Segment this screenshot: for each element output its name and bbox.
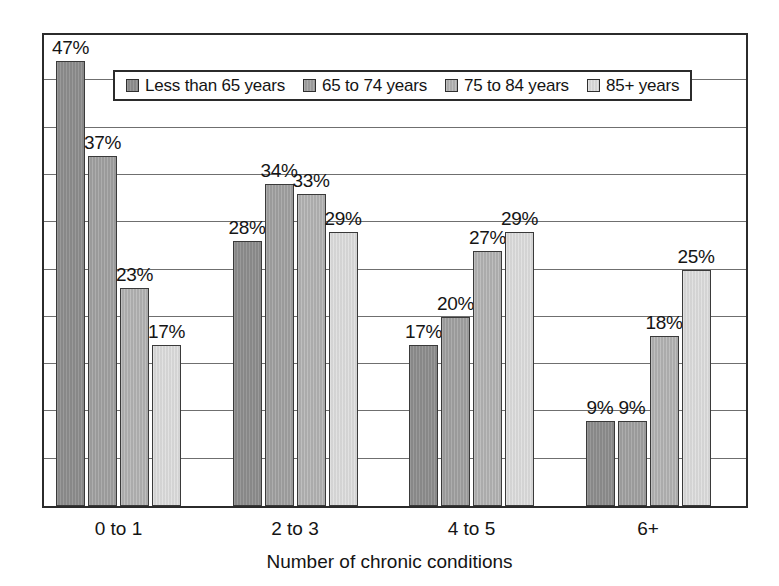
bar-value-label: 47%	[52, 38, 89, 57]
legend-label: Less than 65 years	[145, 77, 285, 94]
bar-value-label: 37%	[84, 133, 121, 152]
chart-legend: Less than 65 years65 to 74 years75 to 84…	[113, 70, 692, 101]
x-axis-tick-labels: 0 to 12 to 34 to 56+	[42, 518, 748, 544]
bar[interactable]	[505, 232, 534, 506]
legend-label: 85+ years	[606, 77, 679, 94]
bar-group: 17%20%27%29%	[409, 33, 534, 506]
plot-area: 47%37%23%17%28%34%33%29%17%20%27%29%9%9%…	[42, 33, 748, 506]
legend-swatch-icon	[587, 79, 600, 92]
bar-value-label: 27%	[469, 228, 506, 247]
bar-value-label: 17%	[405, 322, 442, 341]
bar[interactable]	[473, 251, 502, 506]
x-axis-tick-label: 0 to 1	[95, 518, 143, 540]
bar-value-label: 28%	[228, 218, 265, 237]
bar[interactable]	[88, 156, 117, 506]
legend-swatch-icon	[445, 79, 458, 92]
x-axis-title: Number of chronic conditions	[0, 551, 779, 573]
bar-chart: 47%37%23%17%28%34%33%29%17%20%27%29%9%9%…	[0, 0, 779, 586]
bar-value-label: 25%	[677, 247, 714, 266]
bar[interactable]	[441, 317, 470, 506]
bar[interactable]	[618, 421, 647, 506]
legend-swatch-icon	[303, 79, 316, 92]
bar[interactable]	[297, 194, 326, 506]
bar-value-label: 18%	[645, 313, 682, 332]
bar-value-label: 9%	[587, 398, 614, 417]
legend-item[interactable]: Less than 65 years	[126, 77, 285, 94]
bar[interactable]	[265, 184, 294, 506]
bar-value-label: 17%	[148, 322, 185, 341]
bar-value-label: 9%	[619, 398, 646, 417]
bar[interactable]	[152, 345, 181, 506]
legend-item[interactable]: 65 to 74 years	[303, 77, 427, 94]
bar-value-label: 20%	[437, 294, 474, 313]
bar[interactable]	[120, 288, 149, 506]
bar-group: 28%34%33%29%	[233, 33, 358, 506]
legend-item[interactable]: 85+ years	[587, 77, 679, 94]
bar-value-label: 29%	[501, 209, 538, 228]
legend-item[interactable]: 75 to 84 years	[445, 77, 569, 94]
bar-group: 9%9%18%25%	[586, 33, 711, 506]
bar[interactable]	[233, 241, 262, 506]
bar[interactable]	[329, 232, 358, 506]
x-axis-tick-label: 4 to 5	[448, 518, 496, 540]
bar[interactable]	[682, 270, 711, 507]
bar-group: 47%37%23%17%	[56, 33, 181, 506]
bar[interactable]	[586, 421, 615, 506]
bar[interactable]	[56, 61, 85, 506]
legend-label: 65 to 74 years	[322, 77, 427, 94]
legend-swatch-icon	[126, 79, 139, 92]
bar-value-label: 29%	[324, 209, 361, 228]
bar[interactable]	[409, 345, 438, 506]
bar-value-label: 23%	[116, 265, 153, 284]
legend-label: 75 to 84 years	[464, 77, 569, 94]
bar-value-label: 33%	[292, 171, 329, 190]
x-axis-tick-label: 6+	[637, 518, 659, 540]
x-axis-tick-label: 2 to 3	[271, 518, 319, 540]
bar[interactable]	[650, 336, 679, 506]
